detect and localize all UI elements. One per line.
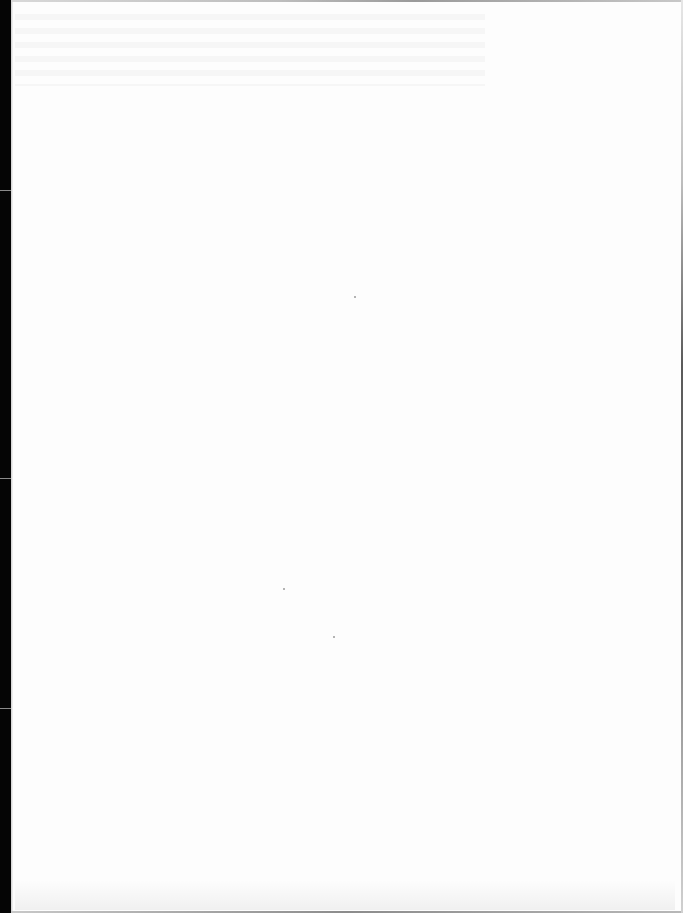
strip-mark xyxy=(0,478,11,479)
scanned-page xyxy=(0,0,683,913)
page-body-text xyxy=(60,100,620,800)
bleed-through-text-top xyxy=(15,6,485,86)
strip-mark xyxy=(0,708,11,709)
bleed-through-shading-bottom xyxy=(15,880,675,910)
binding-shadow xyxy=(11,0,13,913)
strip-mark xyxy=(0,190,11,191)
top-page-edge xyxy=(11,0,683,2)
binding-strip xyxy=(0,0,11,913)
